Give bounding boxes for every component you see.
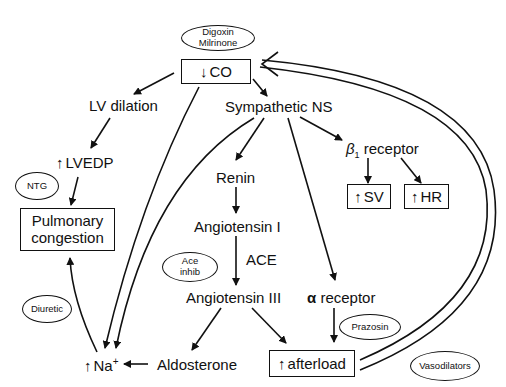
- drug-ntg: NTG: [15, 172, 59, 200]
- node-pulmonary-congestion: Pulmonary congestion: [20, 208, 115, 251]
- diagram-canvas: DigoxinMilrinone ↓CO LV dilation Sympath…: [0, 0, 506, 387]
- drug-label: Milrinone: [199, 38, 238, 49]
- drug-prazosin: Prazosin: [339, 314, 401, 340]
- node-label: LVEDP: [66, 154, 114, 171]
- node-beta1-receptor: β1 receptor: [346, 141, 419, 160]
- beta-subscript: 1: [355, 150, 360, 160]
- node-label: congestion: [31, 230, 104, 247]
- drug-label: Vasodilators: [419, 361, 471, 372]
- up-arrow-icon: ↑: [56, 154, 64, 171]
- node-label: Pulmonary: [32, 213, 104, 230]
- node-label: receptor: [364, 140, 419, 157]
- node-cardiac-output: ↓CO: [181, 59, 251, 84]
- node-label: HR: [420, 188, 442, 205]
- node-renin: Renin: [216, 170, 255, 185]
- node-label: receptor: [320, 289, 375, 306]
- node-stroke-volume: ↑SV: [347, 184, 391, 209]
- down-arrow-icon: ↓: [200, 63, 208, 80]
- up-arrow-icon: ↑: [354, 188, 362, 205]
- node-angiotensin-iii: Angiotensin III: [186, 290, 281, 305]
- drug-label: inhib: [180, 267, 200, 278]
- node-label: Na: [94, 357, 113, 374]
- superscript-plus: +: [113, 356, 119, 367]
- node-lv-dilation: LV dilation: [89, 98, 158, 113]
- node-aldosterone: Aldosterone: [157, 357, 237, 372]
- enzyme-ace: ACE: [246, 252, 277, 267]
- up-arrow-icon: ↑: [411, 188, 419, 205]
- node-label: CO: [210, 63, 233, 80]
- node-label: afterload: [288, 355, 346, 372]
- node-label: SV: [364, 188, 384, 205]
- node-afterload: ↑afterload: [269, 350, 355, 377]
- drug-vasodilators: Vasodilators: [410, 351, 480, 381]
- drug-ace-inhib: Aceinhib: [162, 252, 218, 282]
- node-lvedp: ↑LVEDP: [56, 155, 114, 170]
- node-alpha-receptor: α receptor: [307, 290, 375, 305]
- node-angiotensin-i: Angiotensin I: [194, 219, 281, 234]
- alpha-symbol: α: [307, 289, 316, 306]
- up-arrow-icon: ↑: [278, 355, 286, 372]
- beta-symbol: β: [346, 140, 355, 157]
- up-arrow-icon: ↑: [84, 357, 92, 374]
- drug-label: Diuretic: [31, 304, 63, 315]
- node-heart-rate: ↑HR: [404, 184, 449, 209]
- drug-diuretic: Diuretic: [22, 295, 72, 323]
- drug-digoxin-milrinone: DigoxinMilrinone: [181, 25, 255, 51]
- drug-label: Prazosin: [352, 322, 389, 333]
- node-sodium: ↑Na+: [84, 357, 119, 373]
- drug-label: NTG: [27, 181, 47, 192]
- node-sympathetic-ns: Sympathetic NS: [225, 99, 333, 114]
